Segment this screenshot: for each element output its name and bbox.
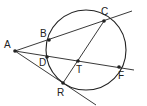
point-r — [61, 81, 65, 85]
secant-ABC-line — [15, 11, 132, 51]
point-b — [47, 38, 51, 42]
lines-group — [15, 11, 134, 105]
point-f — [117, 65, 121, 69]
tangent-AR-line — [15, 51, 96, 105]
secant-ADF-line — [15, 51, 134, 70]
point-label-a: A — [4, 39, 11, 50]
point-a — [13, 49, 17, 53]
circle — [46, 10, 126, 90]
point-label-f: F — [118, 70, 124, 81]
point-label-d: D — [39, 57, 46, 68]
chord-CR-line — [63, 21, 104, 83]
geometry-diagram: ABCDTFR — [0, 0, 147, 106]
point-label-c: C — [101, 6, 108, 17]
point-c — [102, 19, 106, 23]
point-label-b: B — [40, 28, 47, 39]
point-label-t: T — [76, 64, 82, 75]
point-label-r: R — [57, 87, 64, 98]
point-t — [76, 59, 80, 63]
